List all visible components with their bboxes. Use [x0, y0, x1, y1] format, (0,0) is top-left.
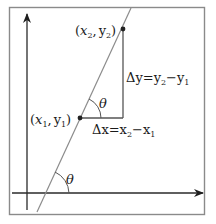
point-p2-label: (x2,y2) — [75, 23, 116, 40]
angle-label-upper: θ — [99, 96, 107, 111]
delta-y-label: Δy=y2−y1 — [126, 70, 189, 87]
delta-x-label: Δx=x2−x1 — [92, 122, 155, 139]
diagram-canvas: (x2,y2) (x1,y1) Δy=y2−y1 Δx=x2−x1 θ θ — [0, 0, 216, 224]
point-p2 — [121, 27, 126, 32]
point-p1-label: (x1,y1) — [30, 112, 71, 129]
angle-label-lower: θ — [66, 172, 74, 187]
slope-diagram: (x2,y2) (x1,y1) Δy=y2−y1 Δx=x2−x1 θ θ — [0, 0, 216, 224]
point-p1 — [78, 116, 83, 121]
slope-line — [37, 8, 131, 212]
